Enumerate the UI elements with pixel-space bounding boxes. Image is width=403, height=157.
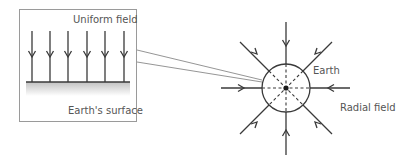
earth-center-dot (283, 85, 288, 90)
field-diagram (0, 0, 403, 157)
radial-field (221, 22, 350, 155)
zoom-callout-lines (137, 50, 262, 82)
earth-surface-label: Earth's surface (68, 105, 143, 116)
earth-surface-shading (26, 82, 130, 96)
uniform-field-label: Uniform field (73, 14, 138, 25)
radial-field-label: Radial field (340, 102, 396, 113)
earth-label: Earth (313, 65, 340, 76)
